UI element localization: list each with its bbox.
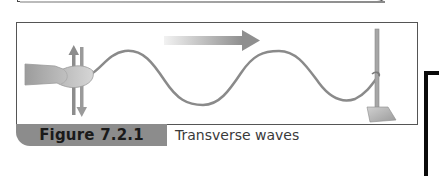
hand-icon (25, 64, 93, 88)
previous-box-shadow (20, 1, 385, 3)
transverse-wave-illustration (17, 23, 417, 124)
direction-arrow-icon (164, 30, 260, 51)
wave-rope (91, 51, 379, 105)
figure-frame (16, 22, 418, 125)
figure-caption: Transverse waves (175, 124, 299, 146)
figure-label: Figure 7.2.1 (16, 124, 167, 146)
next-box-edge (424, 71, 439, 176)
retort-stand-icon (367, 29, 396, 122)
